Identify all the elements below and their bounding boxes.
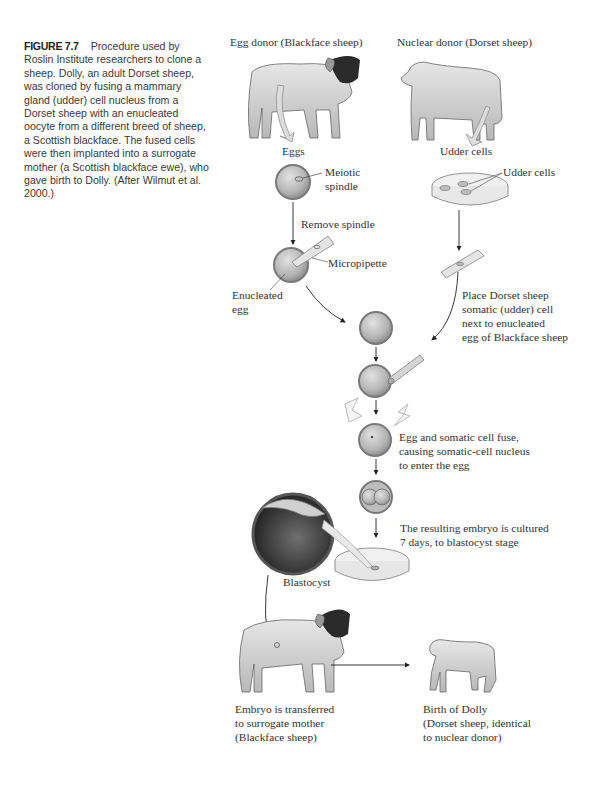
remove-spindle-label: Remove spindle bbox=[301, 218, 375, 231]
udder-cells-pointer-label: Udder cells bbox=[503, 166, 555, 179]
lightning-icon bbox=[345, 398, 362, 422]
place-cell-label-3: next to enucleated bbox=[462, 317, 545, 330]
cultured-label-1: The resulting embryo is cultured bbox=[400, 522, 549, 535]
cultured-label-2: 7 days, to blastocyst stage bbox=[400, 536, 519, 549]
udder-cells-dish bbox=[432, 173, 508, 205]
dolly-lamb bbox=[430, 640, 496, 692]
fuse-label-2: causing somatic-cell nucleus bbox=[399, 445, 530, 458]
place-cell-label-4: egg of Blackface sheep bbox=[462, 331, 568, 344]
surrogate-sheep bbox=[239, 609, 350, 692]
transferred-label-2: to surrogate mother bbox=[235, 717, 324, 730]
nuclear-donor-sheep bbox=[401, 62, 502, 146]
meiotic-spindle-label-2: spindle bbox=[325, 180, 358, 193]
eggs-label: Eggs bbox=[282, 145, 305, 158]
egg-donor-sheep bbox=[248, 56, 360, 142]
blastocyst-label: Blastocyst bbox=[283, 576, 330, 589]
egg-donor-title: Egg donor (Blackface sheep) bbox=[230, 36, 363, 49]
fuse-label-3: to enter the egg bbox=[399, 459, 470, 472]
place-cell-label-2: somatic (udder) cell bbox=[462, 303, 553, 316]
culture-dish bbox=[335, 548, 409, 581]
cell-with-pipette bbox=[359, 365, 391, 397]
nuclear-donor-title: Nuclear donor (Dorset sheep) bbox=[397, 36, 532, 49]
enucleated-cell bbox=[360, 312, 392, 344]
fuse-label-1: Egg and somatic cell fuse, bbox=[399, 431, 519, 444]
lightning-icon bbox=[394, 404, 410, 426]
udder-cells-label: Udder cells bbox=[440, 145, 492, 158]
meiotic-spindle-label-1: Meiotic bbox=[325, 166, 360, 179]
egg-with-spindle bbox=[276, 165, 322, 199]
enucleated-egg-label-2: egg bbox=[232, 303, 248, 316]
cloning-diagram bbox=[0, 0, 599, 802]
two-cell-embryo bbox=[360, 481, 392, 513]
transferred-label-3: (Blackface sheep) bbox=[235, 731, 317, 744]
birth-label-1: Birth of Dolly bbox=[423, 703, 488, 716]
birth-label-2: (Dorset sheep, identical bbox=[423, 717, 531, 730]
micropipette-label: Micropipette bbox=[328, 257, 387, 270]
birth-label-3: to nuclear donor) bbox=[423, 731, 501, 744]
transferred-label-1: Embryo is transferred bbox=[235, 703, 334, 716]
place-cell-label-1: Place Dorset sheep bbox=[462, 289, 549, 302]
arrow-icon bbox=[306, 286, 345, 322]
enucleated-egg-label-1: Enucleated bbox=[232, 289, 283, 302]
fused-cell bbox=[359, 424, 391, 456]
arrow-icon bbox=[432, 272, 458, 340]
enucleated-egg bbox=[270, 236, 334, 290]
